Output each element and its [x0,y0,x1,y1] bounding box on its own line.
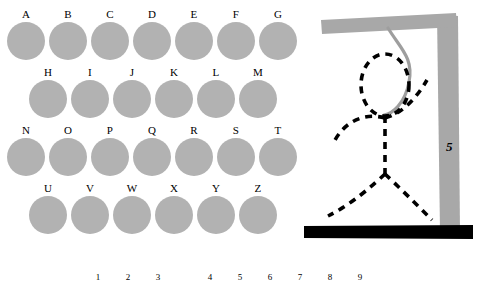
letter-key-disc[interactable] [29,196,67,234]
answer-slot-index: 8 [320,272,340,283]
answer-slot: 1 [88,262,108,283]
letter-key-disc[interactable] [7,138,45,176]
letter-key-o[interactable]: O [49,124,91,182]
answer-blanks: 1 2 3 4 5 6 [88,262,380,288]
wrong-guess-counter: 5 [446,139,453,155]
letter-key-disc[interactable] [113,80,151,118]
letter-key-label: H [29,66,67,79]
letter-key-p[interactable]: P [91,124,133,182]
letter-key-label: M [239,66,277,79]
letter-key-disc[interactable] [259,22,297,60]
keyboard-row-1: A B C D E F G [7,8,301,66]
figure-head-shape [361,54,409,116]
answer-slot-letter [118,262,138,272]
letter-key-w[interactable]: W [113,182,155,240]
letter-key-t[interactable]: T [259,124,301,182]
letter-key-label: Z [239,182,277,195]
figure-left-leg-shape [328,174,385,216]
letter-key-disc[interactable] [133,138,171,176]
letter-key-disc[interactable] [91,22,129,60]
answer-slot-letter [320,262,340,272]
gallows-post-shape [437,14,460,232]
letter-key-label: X [155,182,193,195]
letter-key-disc[interactable] [155,196,193,234]
letter-key-label: D [133,8,171,21]
letter-key-label: O [49,124,87,137]
letter-key-j[interactable]: J [113,66,155,124]
answer-slot: 5 [230,262,250,283]
letter-key-disc[interactable] [91,138,129,176]
letter-key-z[interactable]: Z [239,182,281,240]
figure-right-leg-shape [385,174,432,220]
answer-slot-letter [290,262,310,272]
letter-key-disc[interactable] [197,196,235,234]
answer-slot-letter [350,262,370,272]
letter-key-label: R [175,124,213,137]
answer-slot-index: 5 [230,272,250,283]
letter-key-f[interactable]: F [217,8,259,66]
letter-key-disc[interactable] [239,80,277,118]
letter-key-label: B [49,8,87,21]
letter-key-a[interactable]: A [7,8,49,66]
letter-key-label: U [29,182,67,195]
letter-key-y[interactable]: Y [197,182,239,240]
letter-key-disc[interactable] [197,80,235,118]
letter-key-label: V [71,182,109,195]
letter-key-label: P [91,124,129,137]
letter-key-disc[interactable] [7,22,45,60]
answer-slot-index: 1 [88,272,108,283]
letter-key-disc[interactable] [217,22,255,60]
letter-key-d[interactable]: D [133,8,175,66]
letter-key-disc[interactable] [175,22,213,60]
letter-key-label: W [113,182,151,195]
letter-key-disc[interactable] [239,196,277,234]
answer-slot: 9 [350,262,370,283]
letter-key-disc[interactable] [175,138,213,176]
answer-slot-letter [200,262,220,272]
letter-key-disc[interactable] [71,80,109,118]
letter-key-x[interactable]: X [155,182,197,240]
answer-slot: 3 [148,262,168,283]
letter-key-s[interactable]: S [217,124,259,182]
figure-left-arm-shape [334,116,385,142]
answer-slot-letter [148,262,168,272]
letter-key-g[interactable]: G [259,8,301,66]
letter-key-e[interactable]: E [175,8,217,66]
letter-key-v[interactable]: V [71,182,113,240]
letter-key-disc[interactable] [155,80,193,118]
answer-slot: 2 [118,262,138,283]
letter-key-k[interactable]: K [155,66,197,124]
gallows-illustration [296,0,488,248]
letter-key-h[interactable]: H [29,66,71,124]
answer-slot-index: 9 [350,272,370,283]
hangman-game: A B C D E F G [0,0,488,291]
letter-key-disc[interactable] [29,80,67,118]
letter-key-label: I [71,66,109,79]
letter-key-q[interactable]: Q [133,124,175,182]
letter-key-r[interactable]: R [175,124,217,182]
letter-key-c[interactable]: C [91,8,133,66]
letter-key-label: L [197,66,235,79]
letter-key-label: F [217,8,255,21]
letter-key-disc[interactable] [49,138,87,176]
letter-key-disc[interactable] [71,196,109,234]
letter-key-disc[interactable] [49,22,87,60]
gallows-base-shape [304,225,473,239]
letter-key-b[interactable]: B [49,8,91,66]
answer-slot: 7 [290,262,310,283]
letter-key-l[interactable]: L [197,66,239,124]
letter-key-disc[interactable] [217,138,255,176]
letter-key-label: Y [197,182,235,195]
letter-key-label: N [7,124,45,137]
letter-key-label: E [175,8,213,21]
letter-key-i[interactable]: I [71,66,113,124]
letter-key-label: K [155,66,193,79]
letter-key-u[interactable]: U [29,182,71,240]
letter-key-disc[interactable] [113,196,151,234]
keyboard-row-3: N O P Q R S T [7,124,301,182]
letter-key-disc[interactable] [259,138,297,176]
letter-key-n[interactable]: N [7,124,49,182]
answer-slot-letter [230,262,250,272]
letter-key-m[interactable]: M [239,66,281,124]
letter-key-disc[interactable] [133,22,171,60]
